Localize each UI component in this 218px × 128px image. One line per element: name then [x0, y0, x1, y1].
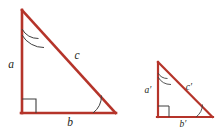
small-triangle-label-a-prime: a′	[145, 85, 153, 95]
small-triangle-label-c-prime: c′	[186, 82, 193, 92]
large-triangle: a b c	[8, 10, 116, 128]
large-triangle-label-c: c	[74, 49, 79, 61]
large-triangle-acute-arc	[93, 96, 102, 114]
small-triangle-label-b-prime: b′	[180, 119, 188, 128]
small-triangle-right-angle-mark	[158, 106, 169, 117]
small-triangle-apex-double-arc	[158, 73, 171, 85]
large-triangle-label-b: b	[67, 116, 73, 128]
similar-triangles-svg: a b c a′ b′	[0, 0, 218, 128]
geometry-figure: a b c a′ b′	[0, 0, 218, 128]
small-triangle: a′ b′ c′	[145, 62, 213, 128]
large-triangle-right-angle-mark	[22, 99, 36, 113]
large-triangle-label-a: a	[8, 58, 14, 70]
